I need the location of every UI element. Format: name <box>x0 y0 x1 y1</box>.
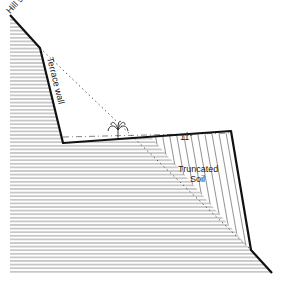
hill-slope-label: Hill slope <box>4 0 36 15</box>
truncated-soil-label-line1: Truncated <box>178 164 218 174</box>
angle-label: 11° <box>180 132 193 142</box>
truncated-soil-label-line2: Soil <box>190 174 205 184</box>
terrace-diagram: Hill slope Terrace wall 11° Truncated So… <box>0 0 282 282</box>
